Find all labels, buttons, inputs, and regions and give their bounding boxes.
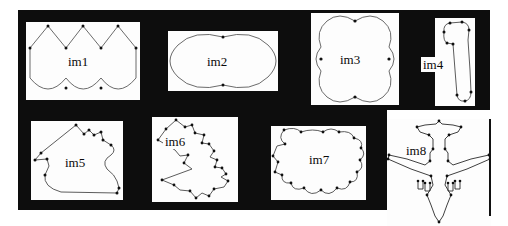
panel-label-im5: im5 xyxy=(63,155,87,170)
panel-label-im2: im2 xyxy=(205,54,229,69)
figure-canvas: im1 im2 im3 xyxy=(0,0,508,226)
panel-label-im3: im3 xyxy=(338,52,362,67)
right-border-rule xyxy=(489,119,491,216)
panel-label-im7: im7 xyxy=(307,152,331,167)
panel-label-im6: im6 xyxy=(163,134,187,149)
panel-im8[interactable] xyxy=(387,119,491,226)
panel-label-im1: im1 xyxy=(66,54,90,69)
shape-im6 xyxy=(152,117,238,202)
panel-label-im4: im4 xyxy=(421,57,445,72)
panel-label-im8: im8 xyxy=(404,143,428,158)
shape-im8 xyxy=(387,119,491,226)
panel-im6[interactable] xyxy=(152,117,238,202)
